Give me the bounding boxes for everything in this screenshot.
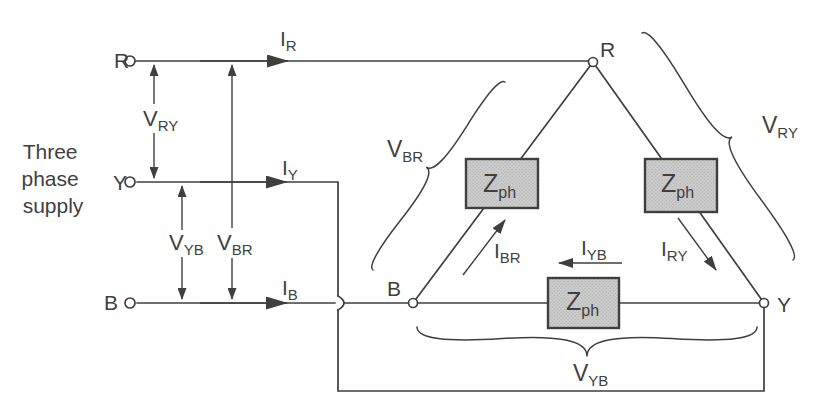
terminal-node-b bbox=[125, 298, 135, 308]
terminal-label-y: Y bbox=[113, 171, 127, 194]
delta-connection-figure: Three phase supply R Y B IR IY IB VRY VY… bbox=[0, 0, 823, 417]
source-label: Three phase supply bbox=[21, 140, 84, 217]
delta-node-b bbox=[409, 299, 418, 308]
delta-node-r bbox=[589, 58, 598, 67]
delta-connection-diagram: Three phase supply R Y B IR IY IB VRY VY… bbox=[0, 0, 823, 417]
terminal-label-b: B bbox=[104, 291, 118, 314]
delta-node-label-y: Y bbox=[777, 293, 791, 316]
terminal-label-r: R bbox=[114, 49, 129, 72]
delta-node-y bbox=[760, 299, 769, 308]
delta-node-label-b: B bbox=[387, 277, 401, 300]
delta-node-label-r: R bbox=[600, 38, 615, 61]
